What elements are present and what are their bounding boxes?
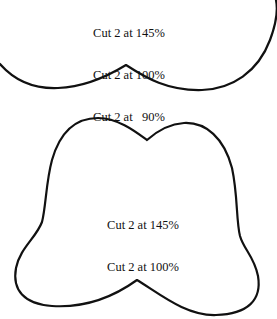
top-piece-label-100: Cut 2 at 100% (86, 68, 172, 82)
bottom-piece-labels: Cut 2 at 145% Cut 2 at 100% (100, 190, 186, 288)
top-piece-label-90: Cut 2 at 90% (86, 110, 172, 124)
bottom-piece-label-100: Cut 2 at 100% (100, 260, 186, 274)
top-piece-label-145: Cut 2 at 145% (86, 26, 172, 40)
bottom-piece-label-145: Cut 2 at 145% (100, 218, 186, 232)
top-piece-labels: Cut 2 at 145% Cut 2 at 100% Cut 2 at 90% (86, 0, 172, 138)
